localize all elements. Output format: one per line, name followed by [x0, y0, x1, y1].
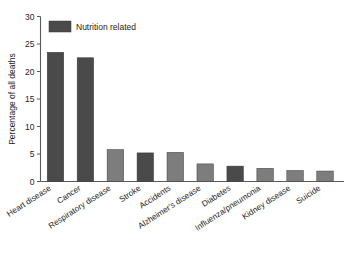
y-axis-title: Percentage of all deaths: [7, 53, 17, 145]
bar: [287, 171, 304, 182]
bar-chart: 051015202530Percentage of all deathsHear…: [0, 0, 350, 258]
x-tick-label: Heart disease: [5, 183, 53, 218]
bar: [257, 168, 274, 181]
x-tick-label: Suicide: [295, 183, 323, 205]
chart-canvas: 051015202530Percentage of all deathsHear…: [0, 0, 350, 258]
plot-area: 051015202530Percentage of all deathsHear…: [5, 12, 344, 233]
y-tick-label: 15: [25, 94, 35, 104]
bar: [107, 150, 124, 182]
y-tick-label: 20: [25, 67, 35, 77]
bar: [47, 52, 64, 181]
legend-label-nutrition-related: Nutrition related: [76, 22, 136, 32]
bar: [197, 164, 214, 182]
y-tick-label: 30: [25, 12, 35, 22]
bar: [317, 171, 334, 181]
y-tick-label: 10: [25, 122, 35, 132]
legend-swatch-nutrition-related: [49, 21, 71, 32]
y-tick-label: 5: [30, 149, 35, 159]
bar: [137, 153, 154, 182]
y-tick-label: 0: [30, 177, 35, 187]
bar: [227, 166, 244, 181]
y-tick-label: 25: [25, 39, 35, 49]
bar: [167, 152, 184, 181]
bar: [77, 58, 94, 182]
